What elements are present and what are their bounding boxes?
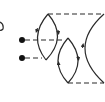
arrow-icon bbox=[37, 28, 38, 31]
middle-lens-loop-right-arc bbox=[68, 38, 78, 83]
arrow-icon bbox=[58, 30, 59, 33]
right-arc bbox=[85, 14, 104, 83]
arrow-icon bbox=[78, 56, 79, 59]
left-lens-loop-right-arc bbox=[46, 14, 58, 60]
partial-loop-glyph bbox=[0, 22, 3, 30]
external-vertex-2 bbox=[19, 55, 25, 61]
arrow-icon bbox=[83, 45, 84, 48]
external-vertex-1 bbox=[19, 37, 25, 43]
feynman-diagram bbox=[0, 0, 105, 102]
middle-lens-loop-left-arc bbox=[58, 38, 68, 83]
left-lens-loop-left-arc bbox=[37, 14, 48, 60]
